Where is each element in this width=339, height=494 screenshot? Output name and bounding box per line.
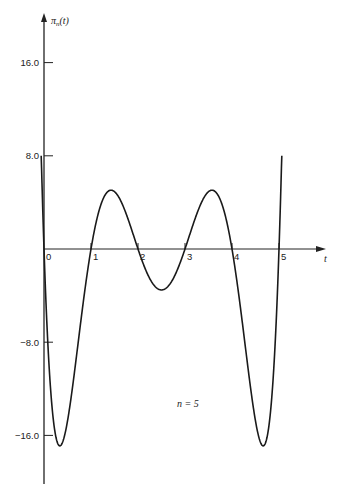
- chart: 16.08.0−8.0−16.0012345 πn(t) t n = 5: [0, 0, 339, 494]
- y-tick-label: 16.0: [21, 57, 40, 68]
- y-axis-title: πn(t): [51, 15, 70, 28]
- annotation-n: n = 5: [177, 398, 199, 409]
- y-label-tail: (t): [60, 15, 70, 27]
- y-tick-label: −8.0: [20, 337, 39, 348]
- x-tick-label: 1: [93, 251, 98, 262]
- x-axis-title: t: [324, 253, 327, 264]
- x-tick-label: 3: [187, 251, 192, 262]
- x-tick-label: 4: [234, 251, 239, 262]
- y-axis-arrow: [41, 13, 47, 22]
- y-tick-label: −16.0: [15, 430, 39, 441]
- x-tick-label: 0: [46, 251, 51, 262]
- series: [41, 156, 282, 446]
- axes: [41, 13, 326, 484]
- x-axis-arrow: [316, 246, 326, 252]
- x-tick-label: 5: [281, 251, 286, 262]
- y-tick-label: 8.0: [26, 150, 39, 161]
- series-line-0: [41, 156, 282, 446]
